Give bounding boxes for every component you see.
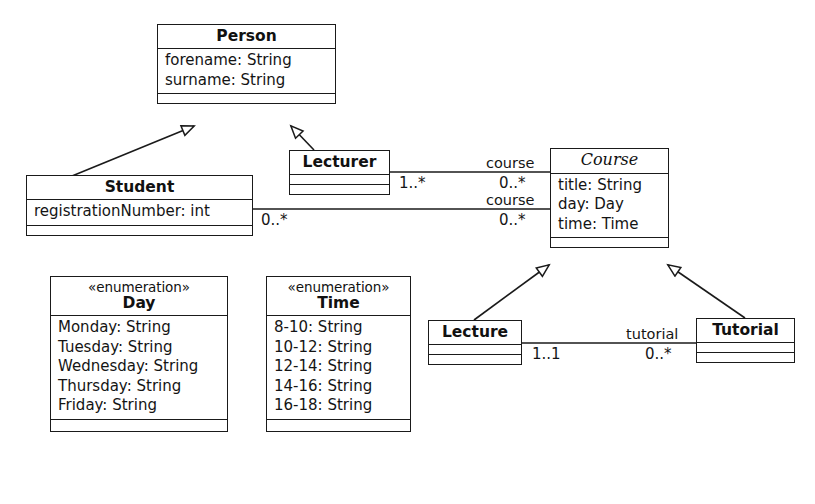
class-lecture-name: Lecture: [429, 321, 521, 344]
enum-literal: Wednesday: String: [58, 357, 220, 377]
enumeration-day-title: Day: [123, 294, 156, 312]
class-person[interactable]: Person forename: String surname: String: [157, 24, 336, 104]
association-student-course-role: course: [486, 192, 534, 208]
association-lecture-tutorial-target-multiplicity: 0..*: [645, 345, 672, 363]
class-course-operations: [551, 238, 668, 247]
class-lecture-attributes: [429, 345, 521, 354]
class-student-name: Student: [27, 176, 252, 199]
enumeration-time-title: Time: [317, 294, 360, 312]
class-lecturer[interactable]: Lecturer: [289, 150, 390, 195]
generalization-student-person: [72, 126, 194, 176]
association-student-course-target-multiplicity: 0..*: [499, 211, 526, 229]
class-tutorial-name: Tutorial: [697, 319, 794, 342]
class-lecturer-name: Lecturer: [290, 151, 389, 174]
attribute: registrationNumber: int: [34, 202, 245, 222]
uml-diagram-canvas: Person forename: String surname: String …: [0, 0, 815, 504]
class-tutorial[interactable]: Tutorial: [696, 318, 795, 363]
enumeration-time-operations: [267, 420, 410, 431]
class-person-name: Person: [158, 25, 335, 48]
enum-literal: 10-12: String: [274, 338, 403, 358]
enumeration-day-name: «enumeration» Day: [51, 277, 227, 315]
enum-literal: Tuesday: String: [58, 338, 220, 358]
class-student-attributes: registrationNumber: int: [27, 200, 252, 225]
association-lecturer-course-target-multiplicity: 0..*: [499, 174, 526, 192]
enumeration-day-stereotype: «enumeration»: [57, 280, 221, 295]
association-lecture-tutorial-role: tutorial: [626, 326, 678, 342]
class-lecture[interactable]: Lecture: [428, 320, 522, 365]
class-tutorial-attributes: [697, 343, 794, 352]
enumeration-time-literals: 8-10: String 10-12: String 12-14: String…: [267, 316, 410, 419]
enum-literal: 14-16: String: [274, 377, 403, 397]
enumeration-time-name: «enumeration» Time: [267, 277, 410, 315]
attribute: time: Time: [558, 215, 661, 235]
enum-literal: Monday: String: [58, 318, 220, 338]
class-person-operations: [158, 94, 335, 103]
enumeration-time-stereotype: «enumeration»: [273, 280, 404, 295]
enum-literal: 12-14: String: [274, 357, 403, 377]
association-lecturer-course-role: course: [486, 155, 534, 171]
generalization-tutorial-course: [668, 265, 745, 318]
enumeration-day[interactable]: «enumeration» Day Monday: String Tuesday…: [50, 276, 228, 432]
association-lecture-tutorial-source-multiplicity: 1..1: [532, 345, 561, 363]
association-lecturer-course-source-multiplicity: 1..*: [399, 174, 426, 192]
class-lecture-operations: [429, 355, 521, 364]
association-student-course-source-multiplicity: 0..*: [261, 211, 288, 229]
enum-literal: 16-18: String: [274, 396, 403, 416]
class-course-attributes: title: String day: Day time: Time: [551, 174, 668, 238]
attribute: title: String: [558, 176, 661, 196]
class-tutorial-operations: [697, 353, 794, 362]
class-student[interactable]: Student registrationNumber: int: [26, 175, 253, 236]
attribute: forename: String: [165, 51, 328, 71]
class-course-name: Course: [551, 149, 668, 173]
generalization-lecturer-person: [291, 126, 314, 150]
attribute: day: Day: [558, 195, 661, 215]
enumeration-day-literals: Monday: String Tuesday: String Wednesday…: [51, 316, 227, 419]
enum-literal: Friday: String: [58, 396, 220, 416]
class-student-operations: [27, 226, 252, 235]
enumeration-time[interactable]: «enumeration» Time 8-10: String 10-12: S…: [266, 276, 411, 432]
enum-literal: 8-10: String: [274, 318, 403, 338]
class-lecturer-attributes: [290, 175, 389, 184]
class-lecturer-operations: [290, 185, 389, 194]
enum-literal: Thursday: String: [58, 377, 220, 397]
class-person-attributes: forename: String surname: String: [158, 49, 335, 93]
attribute: surname: String: [165, 71, 328, 91]
enumeration-day-operations: [51, 420, 227, 431]
generalization-lecture-course: [474, 265, 549, 320]
class-course[interactable]: Course title: String day: Day time: Time: [550, 148, 669, 248]
